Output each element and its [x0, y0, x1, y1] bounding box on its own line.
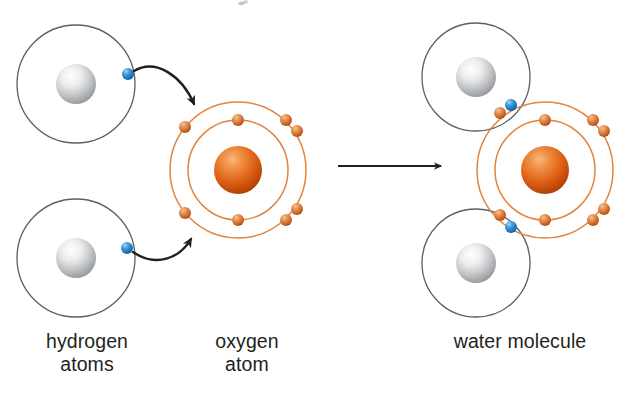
water-formation-diagram: hydrogen atoms oxygen atom water molecul…: [0, 0, 624, 402]
oxygen-electron: [587, 114, 599, 126]
oxygen-electron: [291, 125, 303, 137]
oxygen-electron: [587, 214, 599, 226]
shared-electron-bond-lower: [505, 221, 517, 233]
oxygen-electron: [179, 121, 191, 133]
oxygen-electron: [539, 214, 551, 226]
oxygen-electron: [280, 214, 292, 226]
water-molecule: [422, 23, 613, 317]
curved-arrow-icon-lower: [133, 239, 191, 260]
oxygen-electron: [598, 125, 610, 137]
oxygen-electron: [179, 207, 191, 219]
oxygen-electron: [494, 107, 506, 119]
oxygen-nucleus: [214, 146, 262, 194]
oxygen-electron: [280, 114, 292, 126]
shared-electron: [121, 242, 133, 254]
label-water-molecule: water molecule: [420, 330, 620, 353]
hydrogen-atom-lower: [17, 199, 135, 317]
oxygen-electron: [539, 114, 551, 126]
hydrogen-atom-upper: [17, 25, 135, 143]
cropped-caption-remnant: [238, 0, 248, 5]
oxygen-electron: [598, 203, 610, 215]
hydrogen-nucleus-upper: [56, 64, 96, 104]
oxygen-atom: [170, 102, 306, 238]
oxygen-electron: [494, 209, 506, 221]
label-hydrogen-atoms: hydrogen atoms: [2, 330, 172, 376]
hydrogen-nucleus-bonded-lower: [456, 243, 496, 283]
oxygen-electron: [232, 214, 244, 226]
hydrogen-nucleus-lower: [56, 238, 96, 278]
curved-arrow-icon-upper: [134, 67, 194, 104]
oxygen-nucleus: [521, 146, 569, 194]
shared-electron: [122, 68, 134, 80]
oxygen-electron: [291, 203, 303, 215]
shared-electron-bond-upper: [505, 99, 517, 111]
hydrogen-nucleus-bonded-upper: [456, 57, 496, 97]
label-oxygen-atom: oxygen atom: [172, 330, 322, 376]
water-oxygen-atom: [477, 102, 613, 238]
oxygen-electron: [232, 114, 244, 126]
bonded-hydrogen-upper: [422, 23, 530, 131]
